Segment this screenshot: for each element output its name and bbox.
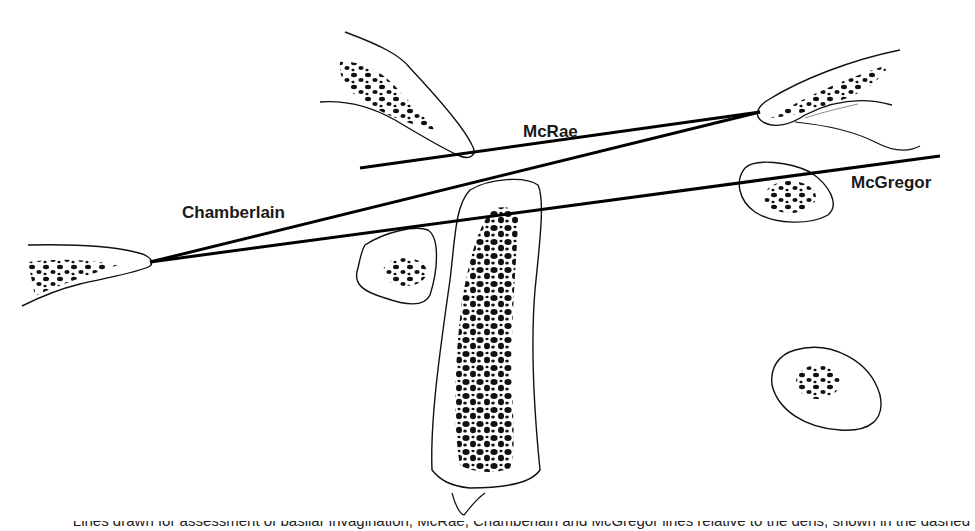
mcrae-label: McRae xyxy=(523,122,578,142)
dens-axis-c2 xyxy=(432,179,542,488)
hard-palate-bone xyxy=(757,50,920,150)
atlas-posterior-arch xyxy=(357,228,437,304)
mcgregor-label: McGregor xyxy=(851,173,931,193)
diagram-canvas: McRae Chamberlain McGregor Lines drawn f… xyxy=(0,0,975,531)
vertebral-body-section xyxy=(772,347,881,430)
lower-contour xyxy=(452,493,485,515)
clivus-bone-upper xyxy=(320,32,474,157)
occipital-bone-left xyxy=(22,245,152,306)
chamberlain-label: Chamberlain xyxy=(182,203,285,223)
diagram-drawing xyxy=(0,0,975,531)
